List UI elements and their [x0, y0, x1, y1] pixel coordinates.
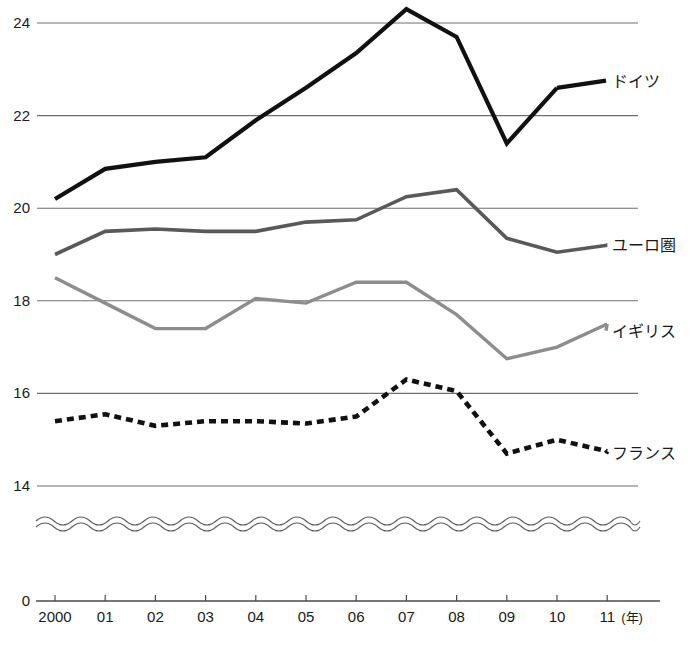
x-tick-label-06: 06 [348, 608, 365, 625]
x-tick-label-02: 02 [147, 608, 164, 625]
chart-container: 242220181614 ドイツユーロ圏イギリスフランス 0 200001020… [0, 0, 690, 650]
x-axis-unit-label-text: (年) [621, 610, 643, 625]
x-tick-label-2000: 2000 [38, 608, 71, 625]
series-label-3: フランス [612, 444, 676, 463]
series-labels: ドイツユーロ圏イギリスフランス [557, 72, 676, 464]
y-tick-label-18: 18 [13, 292, 30, 309]
series-label-leader-2 [606, 324, 607, 331]
x-tick-label-01: 01 [97, 608, 114, 625]
x-tick-label-03: 03 [197, 608, 214, 625]
series-label-leader-0 [557, 81, 606, 88]
series-label-leader-3 [606, 451, 607, 453]
y-tick-label-22: 22 [13, 107, 30, 124]
x-tick-label-04: 04 [247, 608, 264, 625]
x-axis-unit-label: (年) [621, 610, 643, 625]
x-tick-label-09: 09 [498, 608, 515, 625]
series-label-2: イギリス [612, 322, 676, 341]
line-chart: 242220181614 ドイツユーロ圏イギリスフランス 0 200001020… [0, 0, 690, 650]
series-label-0: ドイツ [612, 72, 660, 91]
axis-break-wave-icon [36, 517, 640, 531]
wave-line-lower [36, 523, 640, 531]
y-tick-label-24: 24 [13, 14, 30, 31]
series-lines [55, 9, 607, 453]
x-axis: 0 [22, 592, 660, 609]
gridlines [37, 23, 638, 486]
y-tick-label-0: 0 [22, 592, 30, 609]
series-line-0 [55, 9, 557, 199]
y-tick-label-14: 14 [13, 477, 30, 494]
x-tick-label-07: 07 [398, 608, 415, 625]
series-line-3 [55, 380, 607, 454]
x-tick-label-10: 10 [549, 608, 566, 625]
y-tick-label-20: 20 [13, 199, 30, 216]
x-tick-label-08: 08 [448, 608, 465, 625]
series-line-2 [55, 278, 607, 359]
x-tick-label-11: 11 [599, 608, 615, 625]
x-axis-tick-labels: 20000102030405060708091011 [38, 608, 615, 625]
series-label-1: ユーロ圏 [612, 236, 676, 255]
y-tick-label-16: 16 [13, 384, 30, 401]
series-line-1 [55, 190, 607, 255]
x-tick-label-05: 05 [298, 608, 315, 625]
y-axis-tick-labels: 242220181614 [13, 14, 30, 494]
